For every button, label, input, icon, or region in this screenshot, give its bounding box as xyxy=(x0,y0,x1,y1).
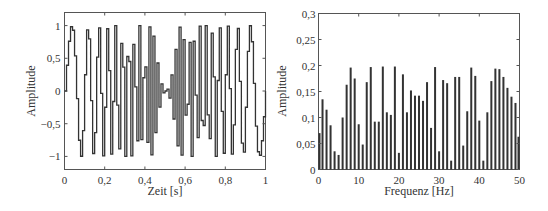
spectrum-bar xyxy=(518,137,520,170)
y-tick-label: 0,15 xyxy=(296,86,316,98)
x-tick-label: 0,8 xyxy=(218,174,232,186)
spectrum-bar xyxy=(490,81,492,169)
x-tick-label: 0,2 xyxy=(98,174,112,186)
x-tick-label: 0 xyxy=(316,174,322,186)
spectrum-bar xyxy=(330,125,332,169)
spectrum-bar xyxy=(386,112,388,169)
x-tick-label: 50 xyxy=(514,174,526,186)
spectrum-bar xyxy=(350,68,352,170)
spectrum-bar xyxy=(462,146,464,170)
spectrum-bar xyxy=(398,153,400,170)
spectrum-bar xyxy=(498,69,500,169)
chirp-signal-line xyxy=(65,26,266,157)
spectrum-bar xyxy=(450,161,452,170)
spectrum-bar xyxy=(378,122,380,170)
spectrum-bar xyxy=(374,122,376,170)
spectrum-bar xyxy=(458,77,460,170)
spectrum-bar xyxy=(474,76,476,170)
spectrum-bar xyxy=(390,115,392,170)
spectrum-bar xyxy=(426,82,428,169)
spectrum-bar xyxy=(494,69,496,170)
spectrum-bar xyxy=(366,82,368,169)
spectrum-bars xyxy=(319,67,520,170)
y-tick-label: 0 xyxy=(310,164,316,176)
x-tick-label: 1 xyxy=(263,174,269,186)
spectrum-bar xyxy=(334,151,336,169)
spectrum-bar xyxy=(410,90,412,169)
time-y-axis-label: Amplitude xyxy=(24,65,38,116)
x-tick-label: 10 xyxy=(353,174,365,186)
y-tick-label: 0,05 xyxy=(296,138,316,150)
spectrum-bar xyxy=(414,96,416,170)
spectrum-bar xyxy=(442,80,444,169)
spectrum-bar xyxy=(342,118,344,170)
spectrum-bar xyxy=(346,85,348,170)
spectrum-bar xyxy=(354,79,356,170)
spectrum-bar xyxy=(406,112,408,169)
y-tick-label: −0,5 xyxy=(41,118,61,130)
spectrum-bar xyxy=(338,155,340,170)
spectrum-bar xyxy=(434,67,436,169)
spectrum-bar xyxy=(438,151,440,169)
spectrum-bar xyxy=(454,77,456,170)
spectrum-bar xyxy=(502,77,504,170)
spectrum-x-axis-label: Frequenz [Hz] xyxy=(384,184,454,198)
spectrum-bar xyxy=(362,145,364,170)
spectrum-chart: 01020304050 00,050,10,150,20,250,3 Frequ… xyxy=(275,8,526,199)
spectrum-bar xyxy=(514,103,516,170)
spectrum-bar xyxy=(422,101,424,170)
spectrum-bar xyxy=(382,67,384,170)
spectrum-bar xyxy=(418,96,420,170)
time-x-axis-label: Zeit [s] xyxy=(148,184,183,198)
spectrum-bar xyxy=(446,83,448,169)
spectrum-bar xyxy=(322,99,324,169)
x-tick-label: 40 xyxy=(474,174,486,186)
y-tick-label: 0,1 xyxy=(302,112,316,124)
spectrum-bar xyxy=(466,111,468,169)
y-tick-label: 0,2 xyxy=(302,60,316,72)
spectrum-bar xyxy=(326,110,328,170)
spectrum-bar xyxy=(506,88,508,170)
y-tick-label: 0,25 xyxy=(296,34,316,46)
time-signal-chart: 00,20,40,60,81 −1−0,500,51 Zeit [s] Ampl… xyxy=(24,13,268,199)
spectrum-bar xyxy=(319,133,321,169)
spectrum-bar xyxy=(470,68,472,170)
spectrum-bar xyxy=(358,124,360,169)
x-tick-label: 0 xyxy=(62,174,68,186)
spectrum-bar xyxy=(430,128,432,170)
spectrum-bar xyxy=(486,112,488,169)
spectrum-bar xyxy=(370,67,372,169)
y-tick-label: 0,3 xyxy=(302,8,316,20)
spectrum-bar xyxy=(510,97,512,170)
y-tick-label: −1 xyxy=(49,150,61,162)
y-tick-label: 0,5 xyxy=(47,52,61,64)
figure: 00,20,40,60,81 −1−0,500,51 Zeit [s] Ampl… xyxy=(0,0,548,211)
spectrum-bar xyxy=(394,67,396,170)
spectrum-bar xyxy=(482,161,484,170)
spectrum-y-axis-label: Amplitude xyxy=(275,65,289,116)
y-tick-label: 0 xyxy=(55,85,61,97)
y-tick-label: 1 xyxy=(55,20,61,32)
spectrum-bar xyxy=(402,74,404,169)
spectrum-bar xyxy=(478,121,480,170)
